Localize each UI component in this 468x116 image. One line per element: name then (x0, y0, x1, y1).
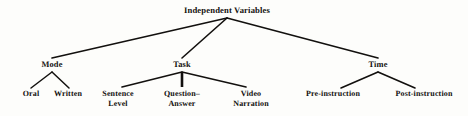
node-question-answer: Question– Answer (164, 89, 200, 108)
independent-variables-tree-diagram: Independent Variables Mode Task Time Ora… (0, 0, 468, 116)
edge-task-to-video-narration (182, 72, 246, 87)
node-oral: Oral (23, 89, 40, 99)
node-video-narration: Video Narration (233, 89, 269, 108)
node-label-task: Task (173, 60, 191, 70)
node-independent-variables: Independent Variables (184, 6, 270, 16)
node-written: Written (54, 89, 82, 99)
edges-from-root (52, 18, 378, 58)
node-label-question-answer-line-1: Question– (164, 89, 200, 99)
node-label-video-narration-line-1: Video (233, 89, 269, 99)
node-pre-instruction: Pre-instruction (306, 89, 360, 99)
edges-from-time (341, 72, 415, 88)
edge-mode-to-oral (31, 72, 52, 88)
node-mode: Mode (41, 60, 62, 70)
node-label-sentence-level-line-2: Level (102, 99, 133, 109)
edge-mode-to-written (52, 72, 69, 88)
node-label-independent-variables: Independent Variables (184, 6, 270, 16)
edge-root-to-mode (52, 18, 227, 58)
node-label-oral-line-1: Oral (23, 89, 40, 99)
edge-time-to-post-instruction (378, 72, 415, 88)
node-label-post-instruction-line-1: Post-instruction (395, 89, 452, 99)
edge-time-to-pre-instruction (341, 72, 378, 88)
node-label-mode: Mode (41, 60, 62, 70)
node-label-sentence-level-line-1: Sentence (102, 89, 133, 99)
edge-task-to-sentence-level (122, 72, 182, 87)
edge-root-to-task (182, 18, 227, 58)
node-sentence-level: Sentence Level (102, 89, 133, 108)
node-time: Time (368, 60, 387, 70)
node-post-instruction: Post-instruction (395, 89, 452, 99)
node-label-time: Time (368, 60, 387, 70)
node-task: Task (173, 60, 191, 70)
node-label-pre-instruction-line-1: Pre-instruction (306, 89, 360, 99)
edge-root-to-time (227, 18, 378, 58)
node-label-video-narration-line-2: Narration (233, 99, 269, 109)
edges-from-mode (31, 72, 69, 88)
edges-from-task (122, 72, 246, 87)
node-label-question-answer-line-2: Answer (164, 99, 200, 109)
node-label-written-line-1: Written (54, 89, 82, 99)
